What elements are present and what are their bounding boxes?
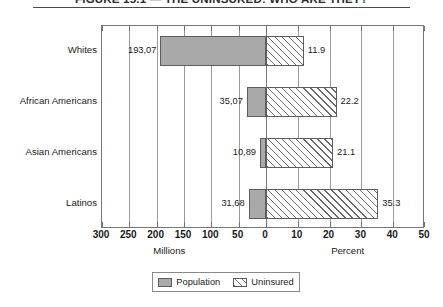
tick-millions-100 [211, 26, 212, 31]
bar-population-whites [160, 36, 266, 66]
tick-millions-50 [239, 222, 240, 227]
tick-label-percent-10: 10 [291, 229, 302, 240]
tick-percent-30 [361, 26, 362, 31]
value-axis-ticks: 3002502001501005001020304050 [101, 229, 424, 245]
category-axis: WhitesAfrican AmericansAsian AmericansLa… [0, 25, 97, 228]
tick-millions-150 [184, 26, 185, 31]
tick-percent-20 [330, 26, 331, 31]
tick-percent-50 [424, 26, 425, 31]
legend-label-uninsured: Uninsured [251, 277, 293, 287]
tick-percent-10 [298, 26, 299, 31]
chart-legend: Population Uninsured [152, 272, 300, 292]
tick-label-millions-100: 100 [202, 229, 219, 240]
value-label-uninsured-asian-americans: 21.1 [337, 147, 355, 157]
tick-millions-100 [211, 222, 212, 227]
tick-label-millions-150: 150 [175, 229, 192, 240]
tick-millions-300 [102, 26, 103, 31]
bar-chart: WhitesAfrican AmericansAsian AmericansLa… [0, 0, 443, 307]
value-label-population-asian-americans: 10,89 [216, 147, 256, 157]
bar-uninsured-asian-americans [266, 138, 333, 168]
value-label-population-african-americans: 35,07 [203, 96, 243, 106]
category-label-asian-americans: Asian Americans [1, 146, 97, 157]
bar-uninsured-latinos [266, 189, 378, 219]
legend-item-uninsured: Uninsured [233, 277, 293, 287]
tick-millions-0 [266, 222, 267, 227]
gridline-millions-200 [157, 26, 158, 227]
tick-millions-150 [184, 222, 185, 227]
category-label-latinos: Latinos [1, 197, 97, 208]
gridline-millions-250 [129, 26, 130, 227]
tick-millions-250 [129, 222, 130, 227]
tick-millions-50 [239, 26, 240, 31]
left-axis-title: Millions [153, 245, 185, 256]
tick-percent-40 [393, 222, 394, 227]
bar-population-latinos [249, 189, 266, 219]
category-label-african-americans: African Americans [1, 95, 97, 106]
tick-label-percent-40: 40 [387, 229, 398, 240]
population-swatch-icon [158, 278, 172, 287]
tick-percent-40 [393, 26, 394, 31]
value-label-uninsured-whites: 11.9 [308, 45, 325, 55]
value-label-uninsured-african-americans: 22.2 [341, 96, 359, 106]
tick-percent-50 [424, 222, 425, 227]
tick-percent-20 [330, 222, 331, 227]
tick-label-percent-50: 50 [418, 229, 429, 240]
bar-uninsured-african-americans [266, 87, 337, 117]
tick-label-millions-50: 50 [232, 229, 243, 240]
right-axis-title: Percent [331, 245, 364, 256]
bar-uninsured-whites [266, 36, 304, 66]
tick-millions-200 [157, 26, 158, 31]
bar-population-african-americans [247, 87, 266, 117]
tick-millions-200 [157, 222, 158, 227]
tick-millions-300 [102, 222, 103, 227]
tick-millions-0 [266, 26, 267, 31]
value-label-population-whites: 193,07 [116, 45, 156, 55]
tick-millions-250 [129, 26, 130, 31]
legend-label-population: Population [176, 277, 220, 287]
tick-label-percent-30: 30 [355, 229, 366, 240]
value-label-uninsured-latinos: 35.3 [382, 198, 400, 208]
tick-label-percent-20: 20 [323, 229, 334, 240]
tick-label-millions-0: 0 [262, 229, 268, 240]
category-label-whites: Whites [1, 44, 97, 55]
legend-item-population: Population [158, 277, 220, 287]
tick-label-millions-200: 200 [147, 229, 164, 240]
tick-percent-30 [361, 222, 362, 227]
plot-area: 193,0711.935,0722.210,8921.131,6835.3 [101, 25, 424, 228]
tick-label-millions-300: 300 [93, 229, 110, 240]
uninsured-swatch-icon [233, 278, 247, 287]
value-label-population-latinos: 31,68 [205, 198, 245, 208]
tick-label-millions-250: 250 [120, 229, 137, 240]
tick-percent-10 [298, 222, 299, 227]
